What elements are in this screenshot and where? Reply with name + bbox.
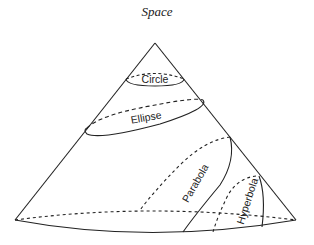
hyperbola-front-curve <box>259 176 263 227</box>
ellipse-label: Ellipse <box>130 108 163 125</box>
cone-diagram: Circle Ellipse Parabola Hyperbola <box>0 0 314 245</box>
base-back-arc <box>15 211 296 220</box>
circle-label: Circle <box>142 73 169 85</box>
parabola-label: Parabola <box>179 162 210 205</box>
base-front-arc <box>15 220 296 233</box>
cone-right-edge <box>155 43 296 220</box>
